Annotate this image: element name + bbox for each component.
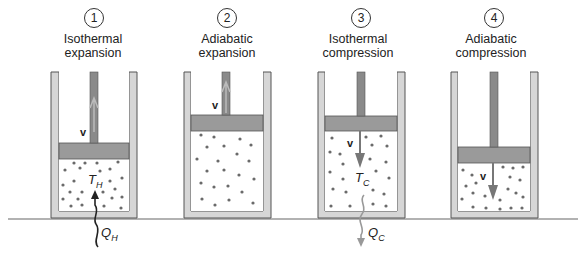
piston-rod xyxy=(357,72,365,116)
heat-label-in: QH xyxy=(101,225,118,243)
stage-label-2-line2: expansion xyxy=(172,46,282,60)
heat-label-out: QC xyxy=(368,225,385,243)
piston-rod xyxy=(490,72,498,147)
piston xyxy=(325,116,397,131)
stage-number-2: 2 xyxy=(217,8,237,28)
stage-label-1-line2: expansion xyxy=(38,46,148,60)
temperature-label-hot: TH xyxy=(88,172,102,190)
stage-label-4: Adiabatic compression xyxy=(436,32,546,60)
cylinder-3 xyxy=(318,72,405,247)
piston xyxy=(191,115,263,131)
temperature-subscript: C xyxy=(363,178,370,188)
stage-number-1: 1 xyxy=(84,8,104,28)
heat-subscript: C xyxy=(378,233,385,243)
stage-label-2: Adiabatic expansion xyxy=(172,32,282,60)
stage-label-1-line1: Isothermal xyxy=(38,32,148,46)
velocity-label-3: v xyxy=(347,137,353,149)
heat-subscript: H xyxy=(111,233,118,243)
stage-number-4: 4 xyxy=(484,8,504,28)
stage-label-4-line2: compression xyxy=(436,46,546,60)
velocity-label-2: v xyxy=(212,99,218,111)
temperature-subscript: H xyxy=(96,180,103,190)
stage-number-3: 3 xyxy=(351,8,371,28)
stage-label-2-line1: Adiabatic xyxy=(172,32,282,46)
stage-label-4-line1: Adiabatic xyxy=(436,32,546,46)
temperature-symbol: T xyxy=(88,172,96,187)
cylinder-1 xyxy=(51,72,137,247)
velocity-label-4: v xyxy=(480,170,486,182)
piston xyxy=(59,143,129,159)
temperature-symbol: T xyxy=(355,170,363,185)
stage-label-3: Isothermal compression xyxy=(303,32,413,60)
stage-label-1: Isothermal expansion xyxy=(38,32,148,60)
cylinder-2 xyxy=(184,72,271,218)
heat-symbol: Q xyxy=(101,225,111,240)
heat-symbol: Q xyxy=(368,225,378,240)
piston xyxy=(458,147,530,163)
temperature-label-cold: TC xyxy=(355,170,369,188)
cylinder-4 xyxy=(451,72,538,218)
stage-label-3-line1: Isothermal xyxy=(303,32,413,46)
stage-label-3-line2: compression xyxy=(303,46,413,60)
velocity-label-1: v xyxy=(80,126,86,138)
